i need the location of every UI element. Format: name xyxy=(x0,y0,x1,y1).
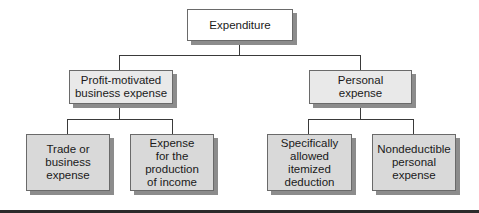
node-nondeductible-personal-expense: Nondeductible personal expense xyxy=(372,134,456,191)
node-specifically-allowed-itemized-deduction: Specifically allowed itemized deduction xyxy=(267,134,352,191)
node-expense-for-production-of-income: Expense for the production of income xyxy=(130,134,214,191)
connector-level1-horizontal xyxy=(119,55,361,56)
node-expenditure: Expenditure xyxy=(187,9,293,41)
node-label: Trade or business expense xyxy=(45,143,90,182)
connector-personal-horizontal xyxy=(308,119,414,120)
node-trade-or-business-expense: Trade or business expense xyxy=(26,134,110,191)
node-label: Expense for the production of income xyxy=(145,137,199,189)
node-label: Profit-motivated business expense xyxy=(75,74,167,100)
node-label: Expenditure xyxy=(209,19,270,32)
connector-root-down xyxy=(239,41,240,55)
node-profit-motivated-business-expense: Profit-motivated business expense xyxy=(69,70,173,104)
connector-to-personal xyxy=(360,55,361,70)
node-label: Personal expense xyxy=(338,74,383,100)
bottom-rule-divider xyxy=(0,210,479,213)
connector-to-trade xyxy=(67,119,68,134)
connector-to-nondeductible xyxy=(413,119,414,134)
connector-to-production xyxy=(172,119,173,134)
node-personal-expense: Personal expense xyxy=(309,70,412,104)
node-label: Specifically allowed itemized deduction xyxy=(281,137,339,189)
connector-business-down xyxy=(119,104,120,119)
node-label: Nondeductible personal expense xyxy=(377,143,451,182)
connector-to-business xyxy=(119,55,120,70)
connector-business-horizontal xyxy=(67,119,173,120)
connector-personal-down xyxy=(360,104,361,119)
connector-to-itemized xyxy=(308,119,309,134)
